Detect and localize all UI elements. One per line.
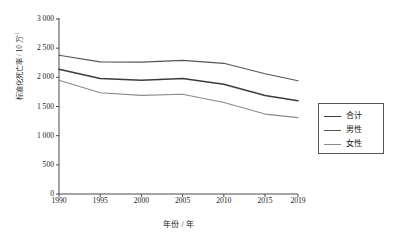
legend-swatch-male bbox=[324, 130, 341, 131]
chart-legend: 合计 男性 女性 bbox=[318, 103, 384, 154]
legend-label-female: 女性 bbox=[346, 139, 362, 149]
x-tick-label: 2010 bbox=[204, 196, 244, 206]
legend-item-male[interactable]: 男性 bbox=[319, 123, 383, 137]
legend-label-male: 男性 bbox=[346, 125, 362, 135]
x-tick-label: 2000 bbox=[121, 196, 161, 206]
series-line-2 bbox=[59, 80, 298, 117]
legend-swatch-total bbox=[324, 116, 341, 117]
series-line-0 bbox=[59, 69, 298, 101]
x-tick-label: 2005 bbox=[163, 196, 203, 206]
legend-label-total: 合计 bbox=[346, 111, 362, 121]
line-chart-figure: 标准化死亡率 / 10 万-1 05001 0001 5002 0002 500… bbox=[0, 0, 393, 240]
x-tick-label: 1990 bbox=[39, 196, 79, 206]
x-tick-label: 2019 bbox=[278, 196, 318, 206]
x-axis-title: 年份 / 年 bbox=[59, 218, 298, 229]
x-tick-labels: 1990199520002005201020152019 bbox=[0, 196, 393, 210]
legend-item-female[interactable]: 女性 bbox=[319, 137, 383, 151]
legend-swatch-female bbox=[324, 144, 341, 145]
legend-item-total[interactable]: 合计 bbox=[319, 109, 383, 123]
x-tick-label: 1995 bbox=[80, 196, 120, 206]
